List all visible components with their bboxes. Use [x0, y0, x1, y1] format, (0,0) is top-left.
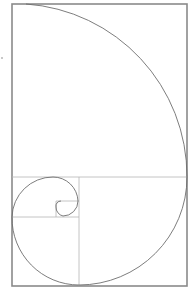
- outer-frame: [12, 4, 187, 286]
- square-divisions: [12, 177, 187, 286]
- edge-mark: [1, 57, 3, 59]
- golden-spiral-curve: [12, 4, 187, 285]
- golden-spiral-diagram: [0, 0, 193, 294]
